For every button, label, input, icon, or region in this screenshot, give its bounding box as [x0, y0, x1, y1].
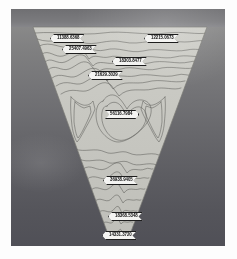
- contour-wedge: [11, 9, 225, 246]
- callout-body: 36938.9405: [103, 176, 138, 185]
- contour-label-25407[interactable]: 25407.4963: [62, 45, 97, 54]
- callout-body: 21629.3029: [88, 71, 123, 80]
- contour-label-value: 12215.0673: [151, 36, 174, 41]
- contour-label-value: 18303.8477: [119, 59, 142, 64]
- contour-label-value: 56116.7984: [110, 112, 132, 117]
- figure-root: 11388.6368 12215.0673 25407.4963 18303.8…: [0, 0, 237, 259]
- contour-label-12215[interactable]: 12215.0673: [144, 34, 179, 43]
- contour-label-value: 18368.5348: [115, 214, 138, 219]
- callout-body: 56116.7984: [105, 110, 139, 119]
- contour-label-21629[interactable]: 21629.3029: [88, 71, 123, 80]
- callout-body: 18303.8477: [112, 57, 147, 66]
- contour-label-value: 11388.6368: [57, 36, 79, 41]
- contour-label-56116[interactable]: 56116.7984: [105, 110, 139, 119]
- contour-label-14331[interactable]: 14331.3720: [102, 231, 137, 240]
- contour-label-18368[interactable]: 18368.5348: [108, 212, 143, 221]
- contour-label-value: 21629.3029: [95, 73, 118, 78]
- contour-label-value: 14331.3720: [109, 233, 132, 238]
- plot-canvas: 11388.6368 12215.0673 25407.4963 18303.8…: [11, 9, 225, 246]
- callout-body: 12215.0673: [144, 34, 179, 43]
- contour-label-value: 25407.4963: [69, 47, 92, 52]
- callout-body: 14331.3720: [102, 231, 137, 240]
- callout-body: 11388.6368: [50, 34, 84, 43]
- contour-label-value: 36938.9405: [110, 178, 133, 183]
- callout-body: 25407.4963: [62, 45, 97, 54]
- contour-label-11388[interactable]: 11388.6368: [50, 34, 84, 43]
- contour-label-36938[interactable]: 36938.9405: [103, 176, 138, 185]
- contour-label-18303[interactable]: 18303.8477: [112, 57, 147, 66]
- callout-body: 18368.5348: [108, 212, 143, 221]
